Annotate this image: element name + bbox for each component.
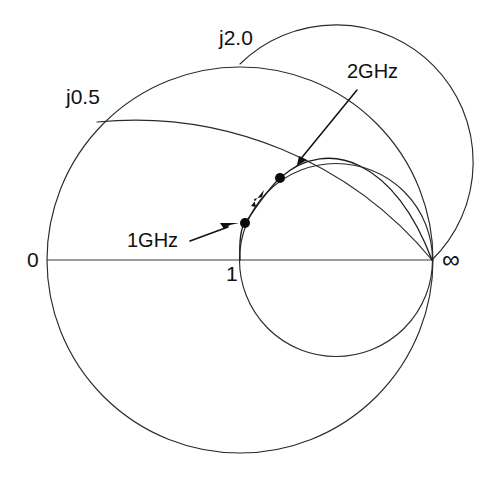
label-infinity: ∞ <box>442 245 460 273</box>
smith-chart-canvas: 0 ∞ 1 j0.5 j2.0 1GHz 2GHz <box>0 0 484 477</box>
leader-line-1ghz <box>190 227 228 241</box>
smith-chart-figure: 0 ∞ 1 j0.5 j2.0 1GHz 2GHz <box>0 0 484 477</box>
marker-dot-1ghz <box>240 218 250 228</box>
label-reactance-j0-5: j0.5 <box>65 85 100 108</box>
label-unity: 1 <box>226 262 238 285</box>
label-marker-2ghz: 2GHz <box>347 60 398 82</box>
frequency-trajectory-curve <box>240 158 432 260</box>
label-reactance-j2-0: j2.0 <box>218 26 253 49</box>
leader-line-2ghz <box>299 90 357 161</box>
label-zero: 0 <box>27 248 39 271</box>
label-marker-1ghz: 1GHz <box>127 229 178 251</box>
marker-dot-2ghz <box>275 173 285 183</box>
